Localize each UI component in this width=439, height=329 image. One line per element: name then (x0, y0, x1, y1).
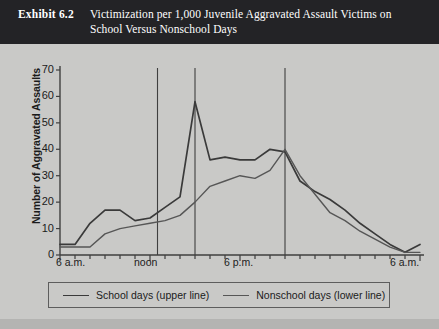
exhibit-header-bar: Exhibit 6.2 Victimization per 1,000 Juve… (0, 0, 439, 44)
legend-line-swatch-school-days (63, 295, 89, 296)
x-axis-tick-label: 6 p.m. (224, 256, 253, 268)
exhibit-figure: Exhibit 6.2 Victimization per 1,000 Juve… (0, 0, 439, 329)
legend-entry-nonschool-days: Nonschool days (lower line) (209, 289, 385, 301)
plot-area (0, 44, 439, 274)
series-line-school-days (60, 102, 420, 253)
chart-body: Number of Aggravated Assaults 0102030405… (0, 44, 439, 319)
exhibit-header-content: Exhibit 6.2 Victimization per 1,000 Juve… (18, 7, 425, 36)
chart-legend: School days (upper line) Nonschool days … (48, 282, 390, 308)
line-chart-svg (0, 44, 439, 274)
legend-entry-school-days: School days (upper line) (49, 289, 209, 301)
x-axis-tick-label: noon (134, 256, 157, 268)
legend-label-nonschool-days: Nonschool days (lower line) (256, 289, 385, 301)
page-bottom-strip (0, 319, 439, 329)
exhibit-title: Victimization per 1,000 Juvenile Aggrava… (90, 7, 392, 36)
legend-line-swatch-nonschool-days (223, 295, 249, 296)
exhibit-title-line-2: School Versus Nonschool Days (90, 22, 392, 37)
exhibit-title-line-1: Victimization per 1,000 Juvenile Aggrava… (90, 7, 392, 22)
x-axis-tick-label: 6 a.m. (390, 256, 419, 268)
legend-label-school-days: School days (upper line) (96, 289, 209, 301)
x-axis-tick-label: 6 a.m. (56, 256, 85, 268)
exhibit-number-label: Exhibit 6.2 (18, 7, 90, 21)
x-axis-tick-labels: 6 a.m.noon6 p.m.6 a.m. (0, 256, 439, 276)
series-line-nonschool-days (60, 149, 420, 252)
